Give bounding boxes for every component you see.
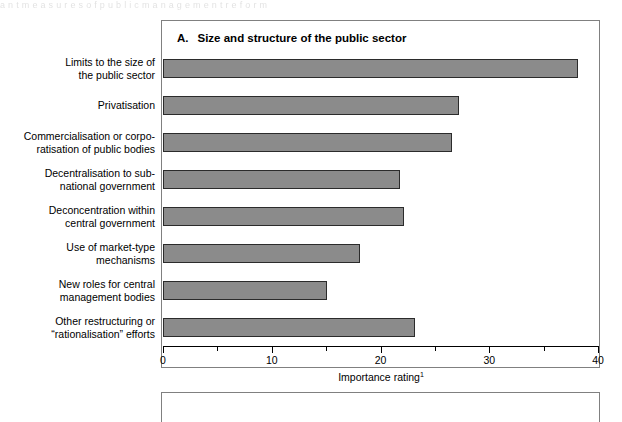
category-label-line: Decentralisation to sub-: [3, 167, 155, 180]
x-tick-minor: [217, 347, 218, 351]
x-axis-title-footnote-marker: 1: [420, 371, 424, 378]
x-tick-major: [489, 347, 490, 353]
x-tick-label: 40: [592, 354, 604, 366]
category-label-line: Commercialisation or corpo-: [3, 130, 155, 143]
category-label-line: New roles for central: [3, 278, 155, 291]
category-label-line: the public sector: [3, 69, 155, 82]
bar-row: [163, 281, 327, 300]
category-label-line: mechanisms: [3, 254, 155, 267]
category-label-line: Use of market-type: [3, 241, 155, 254]
category-label-line: management bodies: [3, 291, 155, 304]
x-tick-minor: [544, 347, 545, 351]
x-tick-label: 30: [483, 354, 495, 366]
x-tick-label: 20: [375, 354, 387, 366]
scan-artifact-text: a n t m e a s u r e s o f p u b l i c m …: [0, 0, 622, 12]
x-tick-minor: [435, 347, 436, 351]
x-tick-label: 0: [160, 354, 166, 366]
category-label-line: national government: [3, 180, 155, 193]
x-tick-major: [598, 347, 599, 353]
category-label-line: “rationalisation” efforts: [3, 328, 155, 341]
panel-letter: A.: [177, 32, 189, 44]
x-tick-major: [272, 347, 273, 353]
bar-row: [163, 96, 459, 115]
bar: [163, 207, 404, 226]
bar-row: [163, 59, 578, 78]
category-label-line: ratisation of public bodies: [3, 143, 155, 156]
x-axis-title: Importance rating1: [338, 371, 424, 383]
x-tick-major: [381, 347, 382, 353]
category-label-line: Deconcentration within: [3, 204, 155, 217]
category-label: Privatisation: [3, 99, 155, 112]
category-label: New roles for centralmanagement bodies: [3, 278, 155, 303]
bar: [163, 281, 327, 300]
category-label-line: Other restructuring or: [3, 315, 155, 328]
bar: [163, 170, 400, 189]
bar: [163, 133, 452, 152]
bar-row: [163, 207, 404, 226]
x-tick-major: [163, 347, 164, 353]
x-tick-minor: [326, 347, 327, 351]
panel-title: A.Size and structure of the public secto…: [177, 32, 406, 44]
category-label: Limits to the size ofthe public sector: [3, 56, 155, 81]
category-label: Use of market-typemechanisms: [3, 241, 155, 266]
bar-row: [163, 244, 360, 263]
category-label-line: central government: [3, 217, 155, 230]
bar-row: [163, 133, 452, 152]
bar: [163, 59, 578, 78]
bar: [163, 244, 360, 263]
category-label: Deconcentration withincentral government: [3, 204, 155, 229]
chart-panel-b-partial: [161, 392, 600, 422]
plot-area: [163, 51, 598, 346]
bar-row: [163, 318, 415, 337]
bar-row: [163, 170, 400, 189]
category-label: Decentralisation to sub-national governm…: [3, 167, 155, 192]
bar: [163, 318, 415, 337]
category-label-line: Limits to the size of: [3, 56, 155, 69]
x-tick-label: 10: [266, 354, 278, 366]
category-label: Other restructuring or“rationalisation” …: [3, 315, 155, 340]
category-label: Commercialisation or corpo-ratisation of…: [3, 130, 155, 155]
bar: [163, 96, 459, 115]
panel-title-text: Size and structure of the public sector: [198, 32, 407, 44]
category-label-line: Privatisation: [3, 99, 155, 112]
category-axis-labels: Limits to the size ofthe public sectorPr…: [0, 51, 155, 346]
